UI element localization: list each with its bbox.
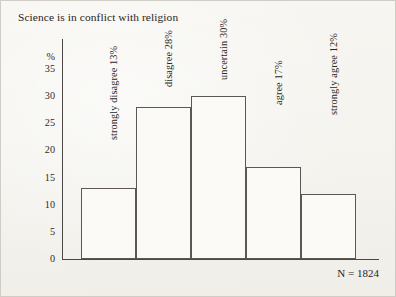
bar-label-strongly-agree: strongly agree 12% <box>328 33 339 115</box>
bar-label-agree: agree 17% <box>273 60 284 105</box>
bar-chart-plot: % 35302520151050 strongly disagree 13%di… <box>1 1 396 297</box>
bar-label-strongly-disagree: strongly disagree 13% <box>108 46 119 140</box>
bar-disagree <box>136 107 191 259</box>
y-axis-tick-10: 10 <box>21 200 55 210</box>
y-axis-tick-15: 15 <box>21 173 55 183</box>
y-axis-unit-label: % <box>21 52 55 62</box>
y-axis-tick-25: 25 <box>21 118 55 128</box>
y-axis-line <box>62 39 63 260</box>
bar-agree <box>246 167 301 259</box>
y-axis-tick-5: 5 <box>21 227 55 237</box>
bar-strongly-agree <box>301 194 356 259</box>
y-axis-tick-30: 30 <box>21 91 55 101</box>
y-axis-tick-20: 20 <box>21 145 55 155</box>
x-axis-line <box>62 259 379 260</box>
figure-container: Science is in conflict with religion % 3… <box>0 0 396 297</box>
bar-label-disagree: disagree 28% <box>163 30 174 87</box>
bar-strongly-disagree <box>81 188 136 259</box>
sample-size-annotation: N = 1824 <box>337 267 379 279</box>
y-axis-tick-0: 0 <box>21 254 55 264</box>
y-axis-tick-35: 35 <box>21 64 55 74</box>
bar-label-uncertain: uncertain 30% <box>218 19 229 80</box>
bar-uncertain <box>191 96 246 259</box>
